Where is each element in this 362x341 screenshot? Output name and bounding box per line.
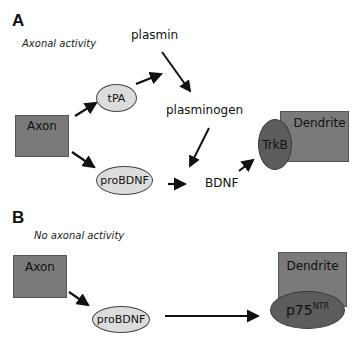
p75ntr-receptor: p75NTR [270, 291, 345, 329]
ntr-superscript: NTR [313, 302, 329, 311]
panel-b-caption: No axonal activity [34, 230, 124, 241]
plasmin-label: plasmin [131, 28, 178, 42]
trkb-receptor: TrkB [258, 119, 292, 170]
probdnf-a-node: proBDNF [96, 166, 153, 195]
p75-text: p75 [286, 302, 313, 318]
panel-b-letter: B [12, 208, 24, 228]
axon-a-box: Axon [15, 115, 69, 157]
plasminogen-label: plasminogen [166, 103, 243, 117]
axon-a-label: Axon [16, 119, 68, 133]
dendrite-b-label: Dendrite [279, 259, 346, 273]
probdnf-a-label: proBDNF [100, 174, 149, 187]
dendrite-a-label: Dendrite [291, 116, 348, 130]
tpa-node: tPA [96, 84, 137, 112]
probdnf-b-node: proBDNF [92, 306, 150, 333]
arrow-axon-b-to-probdnf-b [69, 292, 88, 305]
tpa-label: tPA [108, 92, 126, 105]
panel-a-caption: Axonal activity [22, 38, 96, 49]
bdnf-label: BDNF [205, 176, 238, 190]
arrow-axon-to-tpa [75, 103, 96, 116]
axon-b-label: Axon [14, 260, 66, 274]
axon-b-box: Axon [13, 255, 67, 298]
arrow-bdnf-to-trkb [239, 160, 253, 171]
arrow-plasminogen-to-bdnf [190, 128, 209, 166]
panel-a-letter: A [12, 11, 24, 31]
arrow-plasmin-to-plasminogen [162, 52, 190, 91]
p75ntr-label: p75NTR [286, 302, 329, 318]
probdnf-b-label: proBDNF [97, 313, 146, 326]
arrow-tpa-to-plasmin [136, 74, 161, 84]
trkb-label: TrkB [262, 138, 288, 152]
arrow-axon-to-probdnf [72, 152, 94, 167]
